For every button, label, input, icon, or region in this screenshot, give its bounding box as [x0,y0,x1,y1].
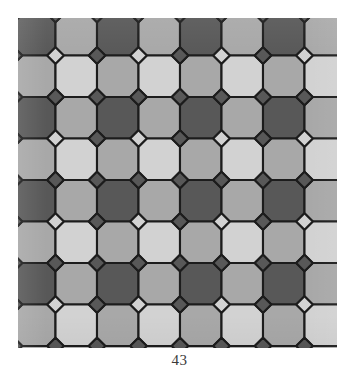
tile-cross [56,305,98,347]
tile-cross [305,18,338,56]
tile-cross [180,305,222,347]
tile-cross [139,18,181,56]
tile-cross [180,139,222,181]
figure-caption: 43 [0,352,359,369]
tile-cross [139,263,181,305]
tile-cross [180,180,222,222]
tile-cross [263,97,305,139]
tile-cross [139,97,181,139]
tile-cross [18,18,56,56]
tile-cross [222,222,264,264]
tile-cross [56,222,98,264]
tile-cross [222,263,264,305]
tile-cross [180,222,222,264]
tile-cross [18,97,56,139]
tile-cross [263,305,305,347]
tile-cross [180,263,222,305]
tile-cross [97,139,139,181]
tile-cross [222,56,264,98]
tile-cross [263,56,305,98]
figure-page: 43 [0,0,359,376]
tile-cross [305,56,338,98]
tile-cross [305,180,338,222]
tile-cross [18,180,56,222]
tile-cross [305,97,338,139]
tile-cross [139,56,181,98]
tile-group [18,18,337,348]
tile-cross [97,97,139,139]
tile-cross [18,222,56,264]
tile-cross [222,139,264,181]
tile-cross [263,18,305,56]
tile-cross [263,180,305,222]
tile-cross [222,18,264,56]
tile-cross [97,305,139,347]
tile-cross [263,263,305,305]
tile-cross [56,97,98,139]
tile-cross [139,305,181,347]
tile-cross [97,56,139,98]
tile-cross [18,263,56,305]
tile-cross [305,222,338,264]
tile-cross [263,139,305,181]
tile-cross [56,263,98,305]
tile-cross [56,56,98,98]
tile-cross [97,18,139,56]
tile-cross [263,222,305,264]
tile-cross [180,18,222,56]
tile-cross [305,263,338,305]
tile-cross [180,97,222,139]
tile-cross [97,263,139,305]
tile-cross [222,180,264,222]
tile-cross [139,139,181,181]
tile-cross [56,18,98,56]
tile-cross [18,305,56,347]
tile-cross [305,305,338,347]
tile-cross [97,222,139,264]
tile-cross [139,222,181,264]
tiling-svg [18,18,337,348]
tile-cross [56,139,98,181]
tile-cross [18,139,56,181]
tile-cross [18,56,56,98]
tile-cross [139,180,181,222]
tile-cross [56,180,98,222]
tile-cross [97,180,139,222]
tile-cross [180,56,222,98]
tile-cross [222,97,264,139]
tile-cross [305,139,338,181]
figure-image-panel [18,18,337,348]
tile-cross [222,305,264,347]
